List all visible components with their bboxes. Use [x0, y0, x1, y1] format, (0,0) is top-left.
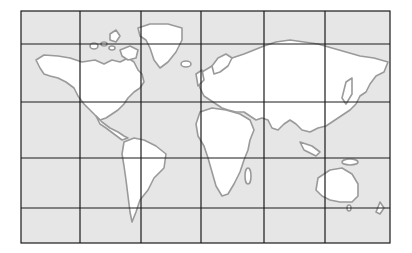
new-guinea	[342, 159, 358, 165]
world-map	[0, 0, 412, 253]
arctic-island	[109, 46, 115, 50]
madagascar	[245, 168, 251, 184]
iceland	[181, 61, 191, 67]
